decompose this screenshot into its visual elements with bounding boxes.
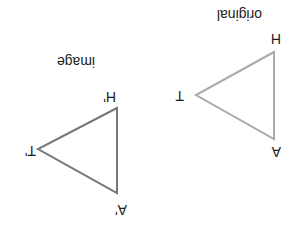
original-vertex-t: T	[175, 89, 184, 103]
original-vertex-h: H	[271, 32, 281, 46]
original-triangle	[196, 52, 274, 139]
image-vertex-h: H'	[103, 90, 116, 104]
image-triangle	[38, 108, 117, 193]
image-vertex-a: A'	[115, 203, 127, 217]
diagram-stage: original H T A image H' T' A'	[0, 0, 301, 235]
triangles-svg	[0, 0, 301, 235]
original-vertex-a: A	[272, 145, 281, 159]
image-caption: image	[57, 55, 95, 69]
image-vertex-t: T'	[25, 144, 36, 158]
original-caption: original	[217, 8, 262, 22]
